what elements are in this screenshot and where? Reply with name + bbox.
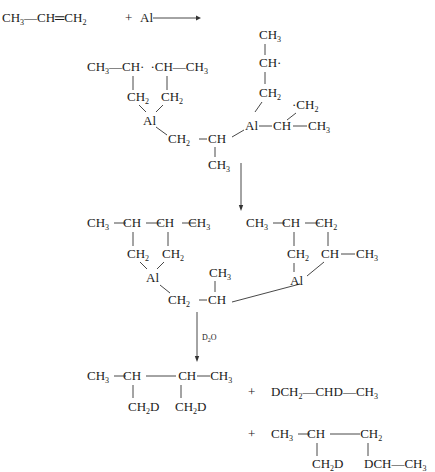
plus-sign: + <box>248 384 255 399</box>
int1-ch2-b: CH2 <box>161 89 183 106</box>
propylene-formula: CH3—CH═CH2 <box>2 10 86 27</box>
int2-right-row: CH3CHCH2 <box>246 215 337 232</box>
int2-bridge-ch3: CH3 <box>209 265 231 282</box>
aluminum-label: Al <box>140 10 153 25</box>
product-1-sub-b: CH2D <box>175 399 206 416</box>
bond <box>157 262 164 269</box>
int1-right-radical-ch2: ·CH2 <box>292 97 318 114</box>
int1-left-row: CH3—CH··CH—CH3 <box>87 59 208 76</box>
int1-ch2-a: CH2 <box>127 89 149 106</box>
arrow-head-icon <box>195 356 199 362</box>
int1-right-al: Al <box>245 118 258 133</box>
product-1-sub-a: CH2D <box>128 399 159 416</box>
int2-ch2-a: CH2 <box>127 246 149 263</box>
int1-right-ch: CH <box>273 118 291 133</box>
int2-right-ch3: CH3 <box>356 246 378 263</box>
product-1-row: CH3CHCHCH3 <box>87 368 232 385</box>
int1-right-ch2: CH2 <box>259 85 281 102</box>
bond <box>140 262 147 269</box>
product-3-sub-b: DCH—CH3 <box>364 456 427 472</box>
int2-ch2-b: CH2 <box>162 246 184 263</box>
bond <box>156 127 167 135</box>
product-2: DCH2—CHD—CH3 <box>271 384 378 401</box>
product-3-sub-a: CH2D <box>312 456 343 472</box>
int2-left-row: CH3CHCHCH3 <box>87 215 210 232</box>
reaction-diagram: CH3—CH═CH2 + Al CH3—CH··CH—CH3 CH2 CH2 A… <box>0 0 435 472</box>
bond <box>307 262 324 276</box>
product-3-row: CH3CHCH2 <box>271 426 382 443</box>
int2-bridge-ch2: CH2 <box>168 292 190 309</box>
reactants: CH3—CH═CH2 + Al <box>2 10 201 27</box>
int2-al-left: Al <box>146 270 159 285</box>
int1-bridge-ch2: CH2 <box>168 131 190 148</box>
intermediate-2: CH3CHCHCH3 CH2 CH2 Al CH2 CH CH3 CH3CHCH… <box>87 215 378 309</box>
products: CH3CHCHCH3 CH2D CH2D + DCH2—CHD—CH3 + CH… <box>87 368 427 472</box>
reagent-label: D2O <box>202 333 217 343</box>
int2-right-ch: CH <box>321 246 339 261</box>
arrow-head-icon <box>196 16 201 21</box>
int2-right-ch2: CH2 <box>287 246 309 263</box>
int1-bridge-ch: CH <box>208 131 226 146</box>
plus-sign: + <box>125 10 132 25</box>
int2-right-al: Al <box>290 273 303 288</box>
int1-bridge-ch3: CH3 <box>208 157 230 174</box>
int1-right-ch3: CH3 <box>308 118 330 135</box>
bond <box>139 105 146 112</box>
int2-bridge-ch: CH <box>208 292 226 307</box>
intermediate-1: CH3—CH··CH—CH3 CH2 CH2 Al CH2 CH CH3 CH3… <box>87 27 330 174</box>
plus-sign: + <box>248 426 255 441</box>
arrow-head-icon <box>239 205 243 211</box>
reaction-scheme: CH3—CH═CH2 + Al CH3—CH··CH—CH3 CH2 CH2 A… <box>0 0 435 472</box>
bond <box>232 130 244 137</box>
bond <box>156 105 163 112</box>
int1-al-left: Al <box>143 113 156 128</box>
int1-right-ch3-top: CH3 <box>259 27 281 44</box>
bond <box>255 102 262 112</box>
int1-right-ch-radical: CH· <box>259 55 281 70</box>
